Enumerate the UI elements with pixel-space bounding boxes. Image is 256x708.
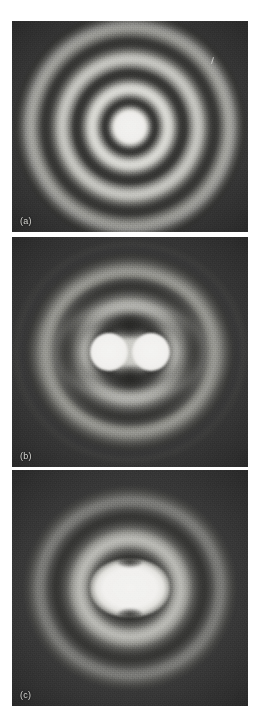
- panel-b-label: (b): [20, 451, 32, 461]
- saddle-notch-top: [117, 318, 143, 338]
- panel-a-label: (a): [20, 216, 32, 226]
- diffraction-figure: (a) (b) (c): [0, 0, 256, 708]
- panel-a: (a): [12, 21, 248, 232]
- panel-c: (c): [12, 470, 248, 706]
- panel-b: (b): [12, 237, 248, 467]
- panel-c-pattern: [12, 470, 248, 706]
- merge-notch-bottom: [118, 609, 142, 619]
- panel-c-label: (c): [20, 690, 31, 700]
- fringe-envelope-b: [12, 240, 248, 464]
- saddle-notch-bottom: [117, 366, 143, 386]
- airy-rings-a: [14, 21, 246, 232]
- bright-disk-left: [90, 333, 128, 371]
- panel-a-pattern: [12, 21, 248, 232]
- panel-b-pattern: [12, 237, 248, 467]
- merge-notch-top: [118, 557, 142, 567]
- bright-disk-right: [132, 333, 170, 371]
